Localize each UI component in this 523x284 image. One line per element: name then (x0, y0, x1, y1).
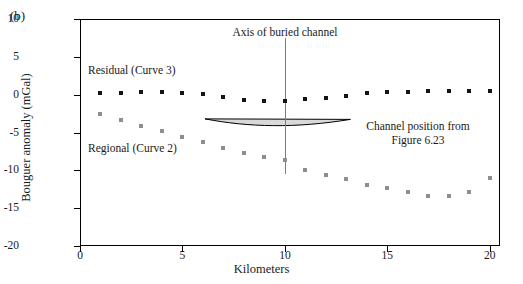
data-point-regional (488, 176, 492, 180)
data-point-residual (303, 97, 307, 101)
data-point-residual (488, 89, 492, 93)
annotation-channel-position-line1: Channel position from (352, 120, 484, 132)
data-point-regional (283, 158, 287, 162)
data-point-residual (385, 90, 389, 94)
data-point-residual (221, 95, 225, 99)
data-point-residual (447, 89, 451, 93)
data-point-residual (324, 96, 328, 100)
data-point-regional (385, 186, 389, 190)
data-point-residual (262, 99, 266, 103)
data-point-residual (139, 90, 143, 94)
data-point-regional (139, 124, 143, 128)
data-point-residual (242, 98, 246, 102)
data-point-regional (119, 118, 123, 122)
data-point-residual (98, 91, 102, 95)
channel-axis-vline (285, 38, 286, 174)
annotation-channel-position-line2: Figure 6.23 (352, 134, 484, 146)
data-point-regional (344, 177, 348, 181)
data-point-residual (180, 91, 184, 95)
data-point-regional (426, 194, 430, 198)
data-point-regional (324, 173, 328, 177)
data-point-regional (262, 155, 266, 159)
annotation-regional-label: Regional (Curve 2) (88, 142, 177, 154)
data-point-regional (303, 168, 307, 172)
data-point-regional (467, 190, 471, 194)
data-point-residual (119, 91, 123, 95)
data-point-regional (98, 112, 102, 116)
data-point-residual (406, 90, 410, 94)
data-point-residual (467, 89, 471, 93)
data-point-regional (201, 140, 205, 144)
data-point-regional (221, 146, 225, 150)
data-point-regional (160, 129, 164, 133)
data-point-regional (406, 190, 410, 194)
data-point-regional (447, 194, 451, 198)
data-point-residual (201, 92, 205, 96)
data-point-residual (365, 91, 369, 95)
lens-shape (205, 119, 350, 126)
annotation-residual-label: Residual (Curve 3) (88, 64, 176, 76)
data-point-regional (180, 135, 184, 139)
data-point-residual (160, 90, 164, 94)
data-point-residual (344, 94, 348, 98)
data-point-residual (283, 99, 287, 103)
figure-panel: (b) Bouguer anomaly (mGal) Kilometers 10… (0, 0, 523, 284)
data-point-residual (426, 89, 430, 93)
data-point-regional (242, 151, 246, 155)
annotation-axis-of-channel: Axis of buried channel (205, 26, 365, 38)
data-point-regional (365, 183, 369, 187)
